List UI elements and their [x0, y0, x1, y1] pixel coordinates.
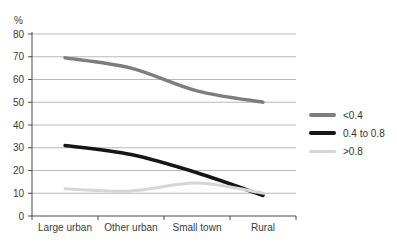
y-tick-label: 80 [13, 29, 25, 40]
y-tick-label: 70 [13, 51, 25, 62]
legend-label: 0.4 to 0.8 [343, 128, 385, 139]
y-tick-label: 40 [13, 120, 25, 131]
legend-item-lt04: <0.4 [309, 109, 385, 121]
legend-item-04to08: 0.4 to 0.8 [309, 127, 385, 139]
legend-item-gt08: >0.8 [309, 145, 385, 157]
y-tick-label: 30 [13, 142, 25, 153]
y-tick-label: 0 [18, 211, 24, 222]
line-chart: % 01020304050607080Large urbanOther urba… [0, 0, 397, 243]
y-tick-label: 10 [13, 188, 25, 199]
y-tick-label: 20 [13, 165, 25, 176]
x-category-label: Other urban [104, 222, 157, 233]
legend-label: <0.4 [343, 110, 363, 121]
legend: <0.4 0.4 to 0.8 >0.8 [309, 109, 385, 157]
y-tick-label: 50 [13, 97, 25, 108]
legend-line-swatch [309, 113, 336, 117]
x-category-label: Rural [251, 222, 275, 233]
legend-label: >0.8 [343, 146, 363, 157]
legend-line-swatch [309, 131, 336, 135]
x-category-label: Large urban [38, 222, 92, 233]
y-tick-label: 60 [13, 74, 25, 85]
x-category-label: Small town [173, 222, 222, 233]
legend-line-swatch [309, 150, 336, 153]
series-line [65, 58, 263, 102]
